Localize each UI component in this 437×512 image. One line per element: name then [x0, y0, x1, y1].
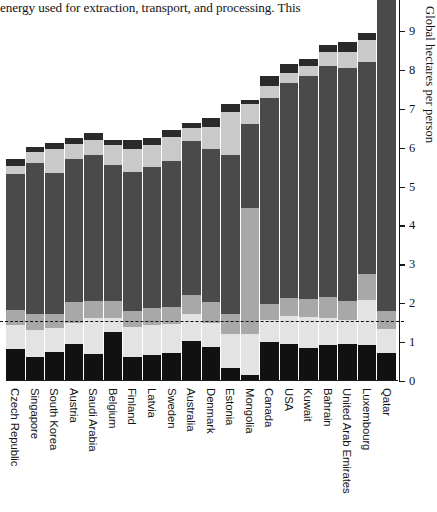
bar-segment-fishing-grounds [260, 86, 279, 98]
bar-segment-forest-products [202, 149, 221, 303]
bar-segment-fishing-grounds [338, 52, 357, 68]
bar-segment-cropland [338, 320, 357, 344]
bar-segment-built-up-land [143, 138, 162, 145]
bar-saudi-arabia[interactable] [84, 133, 103, 381]
bar-segment-forest-products [299, 76, 318, 299]
bar-mongolia[interactable] [241, 100, 260, 381]
x-label-estonia: Estonia [224, 388, 236, 425]
bar-segment-carbon-footprint [260, 342, 279, 381]
bar-united-arab-emirates[interactable] [338, 42, 357, 381]
x-label-sweden: Sweden [166, 388, 178, 429]
bar-segment-forest-products [280, 83, 299, 299]
bar-sweden[interactable] [162, 130, 181, 381]
bar-segment-cropland [26, 330, 45, 357]
bar-luxembourg[interactable] [358, 33, 377, 381]
bar-segment-grazing-land [280, 298, 299, 316]
y-tick-3 [399, 264, 405, 265]
x-label-bahrain: Bahrain [322, 388, 334, 427]
bar-belgium[interactable] [104, 140, 123, 381]
bar-segment-built-up-land [358, 33, 377, 40]
bar-segment-built-up-land [338, 42, 357, 51]
bar-segment-carbon-footprint [182, 341, 201, 381]
bar-segment-grazing-land [377, 311, 396, 329]
bar-segment-fishing-grounds [84, 140, 103, 155]
y-tick-label-9: 9 [409, 23, 415, 38]
bar-segment-fishing-grounds [299, 66, 318, 76]
bar-segment-fishing-grounds [123, 149, 142, 172]
bar-segment-forest-products [241, 124, 260, 208]
bar-czech-republic[interactable] [6, 159, 25, 382]
bar-segment-carbon-footprint [104, 332, 123, 381]
bar-segment-carbon-footprint [280, 344, 299, 381]
bar-segment-forest-products [123, 172, 142, 312]
x-label-canada: Canada [263, 388, 275, 427]
bar-segment-grazing-land [6, 310, 25, 325]
bar-segment-cropland [182, 314, 201, 341]
bar-segment-carbon-footprint [319, 345, 338, 381]
bar-latvia[interactable] [143, 138, 162, 382]
x-label-qatar: Qatar [381, 388, 393, 416]
bar-segment-cropland [65, 323, 84, 344]
bar-australia[interactable] [182, 123, 201, 381]
bar-segment-carbon-footprint [6, 349, 25, 381]
bar-segment-carbon-footprint [123, 357, 142, 381]
bar-segment-built-up-land [221, 104, 240, 112]
bar-segment-forest-products [377, 0, 396, 311]
y-tick-label-3: 3 [409, 257, 415, 272]
bar-segment-carbon-footprint [358, 345, 377, 381]
bar-segment-carbon-footprint [162, 353, 181, 381]
bar-segment-forest-products [84, 155, 103, 300]
bar-segment-cropland [221, 334, 240, 368]
y-tick-0 [399, 381, 405, 382]
bar-finland[interactable] [123, 139, 142, 381]
y-tick-label-6: 6 [409, 140, 415, 155]
bar-segment-grazing-land [299, 299, 318, 317]
bar-segment-fishing-grounds [143, 145, 162, 167]
bar-segment-built-up-land [202, 118, 221, 126]
x-label-luxembourg: Luxembourg [361, 388, 373, 450]
bar-segment-cropland [260, 320, 279, 342]
bar-south-korea[interactable] [45, 143, 64, 381]
bar-austria[interactable] [65, 138, 84, 382]
bar-segment-built-up-land [123, 140, 142, 149]
bar-segment-built-up-land [84, 133, 103, 140]
x-label-belgium: Belgium [107, 388, 119, 428]
bar-segment-built-up-land [299, 59, 318, 66]
bar-segment-forest-products [319, 66, 338, 297]
bar-segment-carbon-footprint [143, 355, 162, 381]
bar-segment-fishing-grounds [26, 152, 45, 163]
bar-segment-grazing-land [123, 311, 142, 326]
bar-segment-grazing-land [182, 295, 201, 314]
bar-segment-carbon-footprint [65, 344, 84, 381]
y-tick-6 [399, 148, 405, 149]
bar-bahrain[interactable] [319, 45, 338, 381]
bar-segment-cropland [162, 324, 181, 353]
bar-singapore[interactable] [26, 147, 45, 381]
y-axis-title: Global hectares per person [422, 6, 437, 206]
bar-segment-forest-products [260, 98, 279, 304]
bar-usa[interactable] [280, 64, 299, 381]
bar-segment-grazing-land [65, 302, 84, 322]
bar-segment-forest-products [162, 161, 181, 306]
x-label-finland: Finland [126, 388, 138, 425]
bar-canada[interactable] [260, 76, 279, 381]
bar-estonia[interactable] [221, 104, 240, 381]
bar-segment-cropland [104, 318, 123, 332]
bar-qatar[interactable] [377, 0, 396, 381]
x-label-united-arab-emirates: United Arab Emirates [341, 388, 353, 494]
bar-segment-grazing-land [241, 208, 260, 335]
bar-segment-built-up-land [280, 64, 299, 72]
y-tick-1 [399, 342, 405, 343]
x-label-mongolia: Mongolia [244, 388, 256, 433]
bar-segment-grazing-land [319, 297, 338, 317]
x-label-austria: Austria [68, 388, 80, 423]
bar-segment-built-up-land [319, 45, 338, 52]
bar-segment-grazing-land [104, 301, 123, 318]
bar-segment-forest-products [104, 165, 123, 301]
y-tick-8 [399, 70, 405, 71]
x-label-australia: Australia [185, 388, 197, 431]
bar-segment-forest-products [65, 159, 84, 303]
bar-denmark[interactable] [202, 118, 221, 381]
bar-kuwait[interactable] [299, 59, 318, 381]
